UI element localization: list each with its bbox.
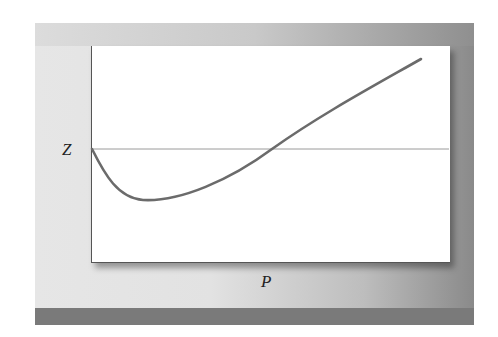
y-axis-label: Z <box>62 140 71 160</box>
z-vs-p-curve <box>92 59 421 200</box>
chart-svg <box>0 0 498 337</box>
x-axis-label: P <box>261 272 271 292</box>
